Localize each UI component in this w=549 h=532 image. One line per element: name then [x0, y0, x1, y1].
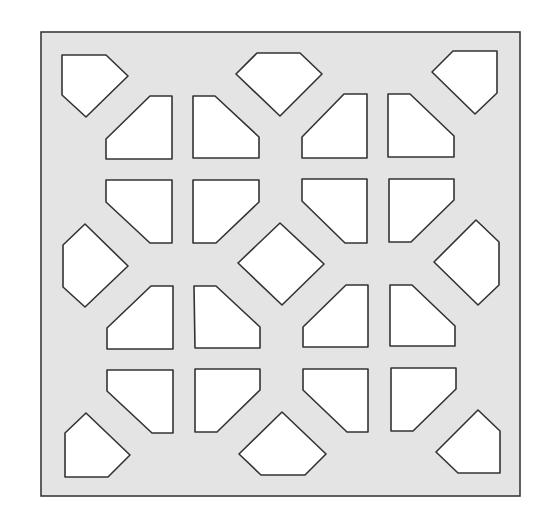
lattice-diagram	[0, 0, 549, 532]
